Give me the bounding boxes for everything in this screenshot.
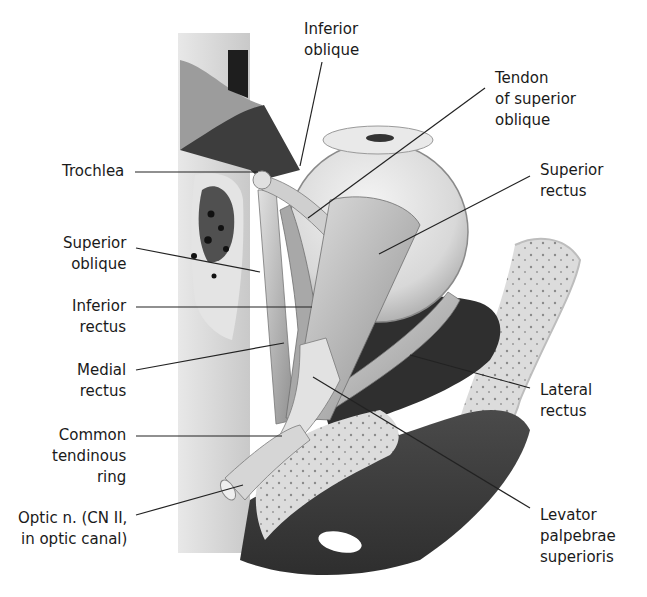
label-medial-rectus: Medial rectus [77, 360, 126, 402]
label-trochlea: Trochlea [62, 161, 124, 182]
label-superior-oblique: Superior oblique [63, 233, 126, 275]
anatomy-figure: Inferior obliqueTendon of superior obliq… [0, 0, 647, 597]
trochlea-pulley [253, 171, 271, 189]
label-levator-palpebrae-superioris: Levator palpebrae superioris [540, 505, 616, 568]
label-optic-nerve: Optic n. (CN II, in optic canal) [18, 508, 127, 550]
label-tendon-of-superior-oblique: Tendon of superior oblique [495, 68, 576, 131]
label-lateral-rectus: Lateral rectus [540, 380, 592, 422]
label-superior-rectus: Superior rectus [540, 160, 603, 202]
label-inferior-oblique: Inferior oblique [304, 19, 359, 61]
leader-line-inferior-oblique [300, 62, 322, 166]
label-common-tendinous-ring: Common tendinous ring [52, 425, 126, 488]
pupil [366, 134, 394, 142]
label-inferior-rectus: Inferior rectus [72, 296, 126, 338]
